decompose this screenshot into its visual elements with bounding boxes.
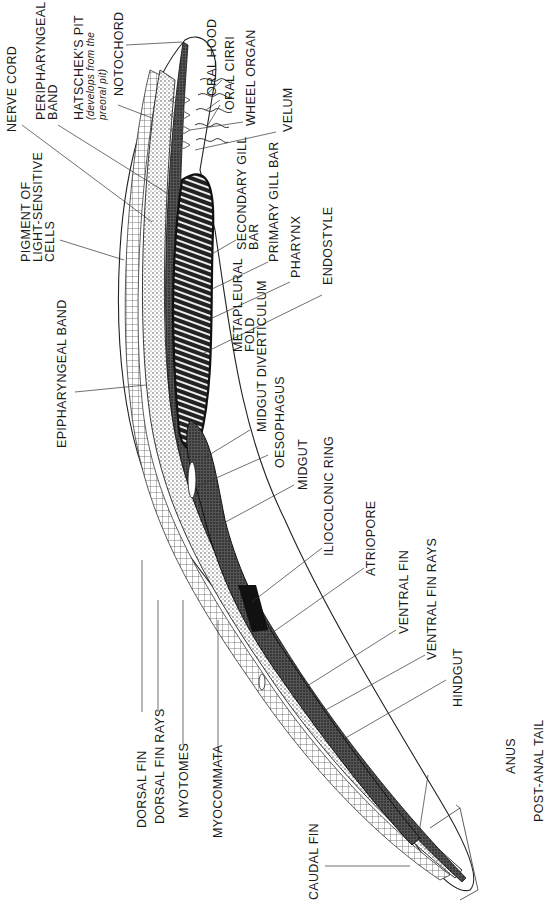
- atriopore: [259, 674, 265, 690]
- label-dorsal-fin: DORSAL FIN: [136, 750, 148, 828]
- label-metapleural-fold: METAPLEURAL FOLD: [232, 258, 256, 352]
- label-pharynx: PHARYNX: [290, 216, 302, 278]
- pharynx: [173, 174, 213, 448]
- label-hatscheks-pit: HATSCHEK'S PIT (develops from the preora…: [73, 15, 109, 120]
- label-ventral-fin-rays: VENTRAL FIN RAYS: [426, 538, 438, 660]
- label-iliocolonic-ring: ILIOCOLONIC RING: [323, 436, 335, 556]
- label-pigment-cells: PIGMENT OF LIGHT-SENSITIVE CELLS: [20, 152, 56, 262]
- label-primary-gill-bar: PRIMARY GILL BAR: [268, 141, 280, 262]
- oesophagus-lumen: [188, 462, 196, 498]
- label-myocommata: MYOCOMMATA: [212, 744, 224, 838]
- label-notochord: NOTOCHORD: [113, 12, 125, 96]
- label-velum: VELUM: [282, 87, 294, 132]
- label-endostyle: ENDOSTYLE: [322, 207, 334, 285]
- label-wheel-organ: WHEEL ORGAN: [245, 29, 257, 126]
- label-peripharyngeal-band: PERIPHARYNGEAL BAND: [35, 1, 59, 120]
- label-dorsal-fin-rays: DORSAL FIN RAYS: [154, 708, 166, 824]
- label-secondary-gill-bar: SECONDARY GILL BAR: [236, 136, 260, 250]
- label-epipharyngeal-band: EPIPHARYNGEAL BAND: [56, 299, 68, 448]
- label-midgut-diverticulum: MIDGUT DIVERTICULUM: [256, 280, 268, 432]
- label-midgut: MIDGUT: [297, 439, 309, 490]
- label-atriopore: ATRIOPORE: [365, 501, 377, 576]
- label-myotomes: MYOTOMES: [178, 743, 190, 818]
- label-post-anal-tail: POST-ANAL TAIL: [533, 719, 545, 822]
- label-caudal-fin: CAUDAL FIN: [308, 823, 320, 900]
- label-oral-hood: ORAL HOOD: [206, 19, 218, 96]
- label-anus: ANUS: [505, 738, 517, 774]
- label-oesophagus: OESOPHAGUS: [274, 376, 286, 468]
- label-nerve-cord: NERVE CORD: [6, 46, 18, 132]
- amphioxus-diagram: NERVE CORD PERIPHARYNGEAL BAND HATSCHEK'…: [0, 0, 556, 902]
- label-hindgut: HINDGUT: [452, 648, 464, 707]
- label-ventral-fin: VENTRAL FIN: [398, 550, 410, 634]
- label-oral-cirri: ORAL CIRRI: [224, 36, 236, 110]
